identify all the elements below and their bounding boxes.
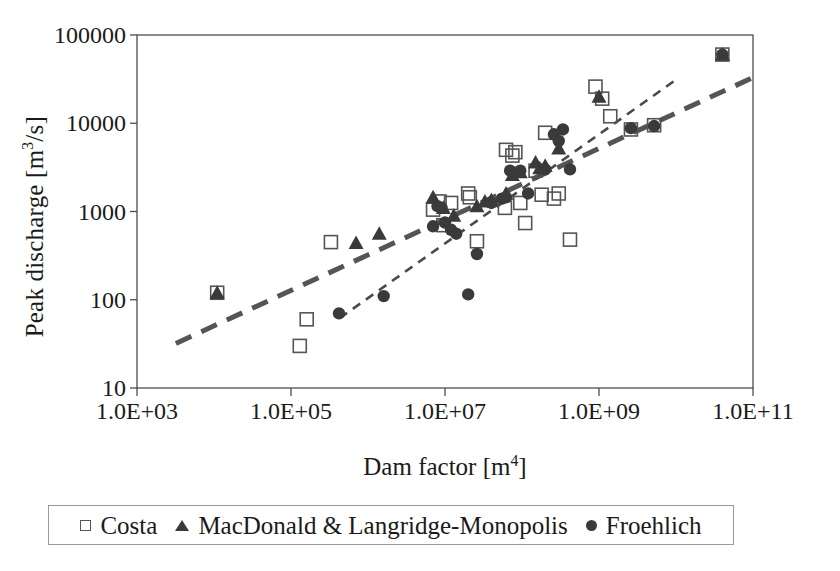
- marker-filled-circle: [539, 163, 551, 175]
- series-costa: [211, 48, 729, 352]
- series-macdonald-langridge-monopolis: [210, 47, 730, 299]
- marker-open-square: [300, 313, 313, 326]
- marker-filled-circle: [471, 248, 483, 260]
- trendline-upper-long-dash: [176, 77, 753, 343]
- marker-filled-circle: [522, 187, 534, 199]
- marker-open-square: [552, 187, 565, 200]
- legend-entry-macdonald-langridge-monopolis[interactable]: MacDonald & Langridge-Monopolis: [175, 513, 567, 538]
- marker-open-square: [563, 233, 576, 246]
- series-froehlich: [333, 48, 729, 319]
- marker-open-square: [604, 110, 617, 123]
- chart-figure: Peak discharge [m3/s] Dam factor [m4] 10…: [0, 0, 840, 571]
- marker-filled-triangle: [372, 226, 387, 240]
- marker-open-square: [463, 191, 476, 204]
- plot-area: [0, 0, 840, 571]
- chart-legend: CostaMacDonald & Langridge-MonopolisFroe…: [48, 505, 734, 545]
- legend-entry-froehlich[interactable]: Froehlich: [586, 513, 702, 538]
- marker-filled-circle: [333, 307, 345, 319]
- legend-filled-circle-icon: [586, 520, 597, 531]
- marker-open-square: [535, 188, 548, 201]
- marker-filled-circle: [427, 220, 439, 232]
- legend-label: Costa: [100, 513, 157, 538]
- marker-filled-circle: [553, 135, 565, 147]
- marker-open-square: [293, 339, 306, 352]
- marker-filled-circle: [648, 120, 660, 132]
- marker-open-square: [509, 146, 522, 159]
- legend-label: MacDonald & Langridge-Monopolis: [198, 513, 567, 538]
- marker-filled-triangle: [349, 235, 364, 249]
- marker-filled-circle: [514, 164, 526, 176]
- marker-filled-circle: [462, 288, 474, 300]
- marker-open-square: [470, 235, 483, 248]
- marker-filled-circle: [435, 202, 447, 214]
- marker-filled-circle: [485, 197, 497, 209]
- legend-open-square-icon: [80, 520, 91, 531]
- marker-open-square: [519, 217, 532, 230]
- legend-label: Froehlich: [606, 513, 702, 538]
- marker-filled-circle: [450, 228, 462, 240]
- legend-entry-costa[interactable]: Costa: [80, 513, 157, 538]
- marker-filled-circle: [500, 191, 512, 203]
- marker-filled-circle: [716, 48, 728, 60]
- marker-filled-circle: [564, 163, 576, 175]
- marker-open-square: [324, 236, 337, 249]
- marker-filled-circle: [625, 122, 637, 134]
- marker-filled-circle: [557, 123, 569, 135]
- marker-filled-circle: [378, 290, 390, 302]
- legend-filled-triangle-icon: [175, 520, 189, 531]
